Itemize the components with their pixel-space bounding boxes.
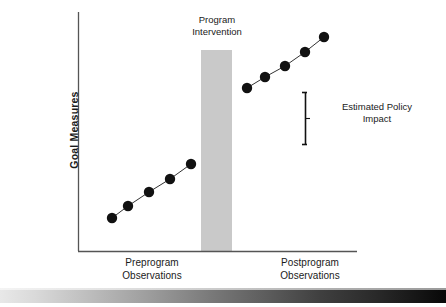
preprogram-data-point [186, 159, 196, 169]
preprogram-data-point [107, 213, 117, 223]
x-axis-caption-postprogram-line2: Observations [252, 270, 368, 283]
estimated-policy-impact-bracket [302, 92, 310, 145]
x-axis-caption-preprogram-line2: Observations [96, 270, 208, 283]
program-intervention-label: Program Intervention [167, 14, 267, 38]
figure-canvas: Goal Measures Program Intervention Estim… [0, 0, 446, 307]
preprogram-data-point [144, 187, 154, 197]
preprogram-data-point [165, 174, 175, 184]
postprogram-data-point [280, 61, 290, 71]
preprogram-data-point [123, 201, 133, 211]
time-series-plot [0, 0, 446, 307]
program-intervention-band [201, 50, 232, 251]
postprogram-data-point [300, 47, 310, 57]
postprogram-data-point [319, 32, 329, 42]
program-intervention-label-line2: Intervention [167, 26, 267, 38]
postprogram-data-point [242, 83, 252, 93]
estimated-policy-impact-label-line2: Impact [316, 113, 438, 125]
x-axis-caption-postprogram-line1: Postprogram [252, 257, 368, 270]
postprogram-data-point [260, 72, 270, 82]
y-axis-title: Goal Measures [68, 50, 80, 210]
x-axis-caption-preprogram: Preprogram Observations [96, 257, 208, 282]
x-axis-caption-postprogram: Postprogram Observations [252, 257, 368, 282]
program-intervention-label-line1: Program [167, 14, 267, 26]
estimated-policy-impact-label: Estimated Policy Impact [316, 101, 438, 125]
page-edge-gradient-bar [0, 290, 446, 303]
estimated-policy-impact-label-line1: Estimated Policy [316, 101, 438, 113]
x-axis-caption-preprogram-line1: Preprogram [96, 257, 208, 270]
